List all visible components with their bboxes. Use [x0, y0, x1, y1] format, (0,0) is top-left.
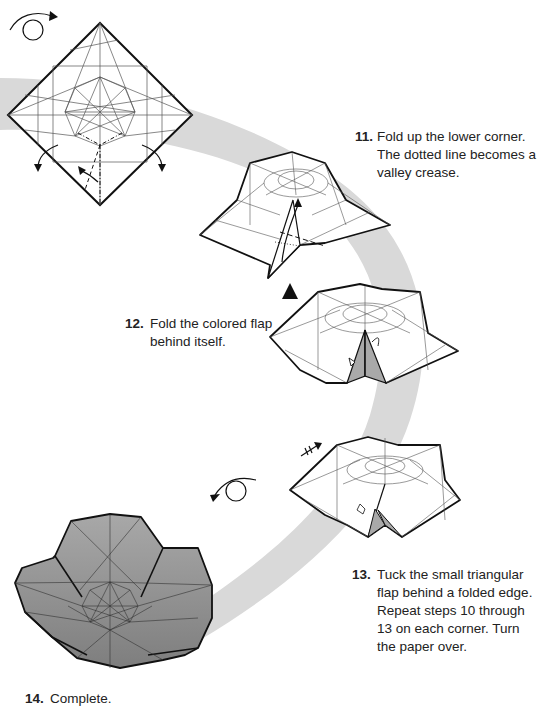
step-14-finished-model [15, 514, 212, 668]
turn-over-arrowhead-bottom [210, 494, 220, 502]
step-14-caption: 14. Complete. [25, 690, 185, 708]
step-11-caption: 11. Fold up the lower corner. The dotted… [355, 128, 540, 182]
push-arrow-icon [282, 283, 298, 299]
step-number: 13. [352, 566, 371, 584]
turn-over-arrowhead [49, 11, 58, 21]
step-10-diamond [8, 23, 192, 205]
step-12-caption: 12. Fold the colored flap behind itself. [125, 315, 285, 351]
step-number: 11. [355, 128, 373, 146]
step-number: 14. [25, 690, 44, 708]
turn-over-icon [10, 14, 52, 40]
step-text: Fold the colored flap behind itself. [150, 315, 285, 351]
turn-over-icon-bottom [215, 479, 256, 501]
step-text: Tuck the small triangular flap behind a … [377, 566, 540, 656]
repeat-arrow-icon [301, 445, 318, 456]
step-text: Fold up the lower corner. The dotted lin… [377, 128, 540, 182]
step-text: Complete. [50, 690, 185, 708]
step-13-caption: 13. Tuck the small triangular flap behin… [352, 566, 540, 656]
step-12-model [270, 284, 458, 383]
repeat-arrowhead [314, 442, 322, 450]
step-number: 12. [125, 315, 144, 333]
